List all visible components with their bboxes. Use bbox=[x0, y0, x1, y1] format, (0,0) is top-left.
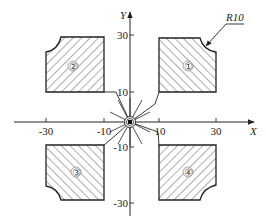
coordinate-diagram: ② ① ③ ④ X bbox=[0, 0, 266, 223]
x-tick-label: 10 bbox=[155, 125, 167, 137]
radius-annotation: R10 bbox=[206, 11, 244, 46]
x-tick-label: -30 bbox=[39, 125, 54, 137]
x-tick-label: 30 bbox=[211, 125, 223, 137]
part-4-label: ④ bbox=[184, 167, 193, 178]
y-tick-label: 10 bbox=[117, 86, 129, 98]
y-tick-label: -30 bbox=[113, 197, 128, 209]
x-tick-label: -10 bbox=[97, 125, 112, 137]
part-1-label: ① bbox=[184, 61, 193, 72]
y-axis-label: Y bbox=[120, 9, 128, 21]
part-3-label: ③ bbox=[72, 167, 81, 178]
y-tick-label: 30 bbox=[117, 29, 129, 41]
x-axis-label: X bbox=[249, 125, 258, 137]
part-1: ① bbox=[159, 38, 216, 92]
part-2-label: ② bbox=[69, 61, 78, 72]
radius-label: R10 bbox=[225, 11, 244, 23]
part-4: ④ bbox=[159, 145, 216, 200]
y-tick-label: -10 bbox=[113, 141, 128, 153]
origin-symbol bbox=[125, 117, 136, 128]
part-3: ③ bbox=[46, 145, 104, 200]
part-2: ② bbox=[46, 37, 104, 92]
